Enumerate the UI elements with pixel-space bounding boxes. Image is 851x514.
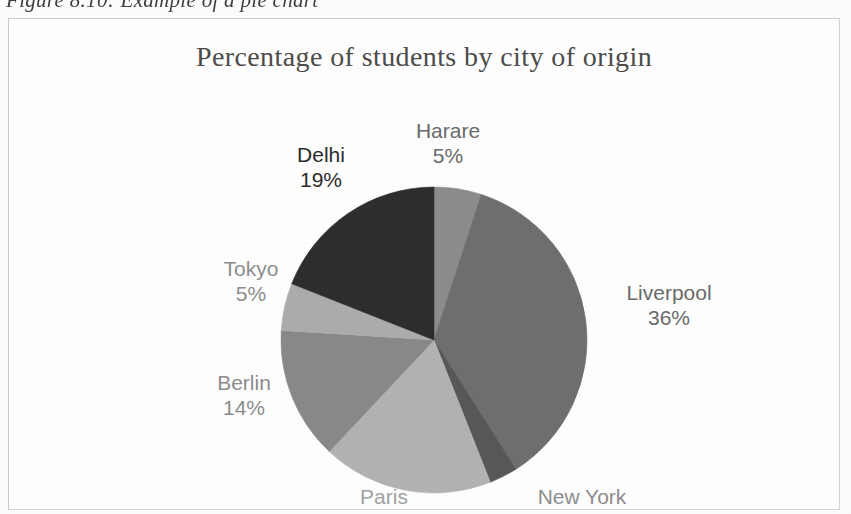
scanned-page: Figure 8.10: Example of a pie chart Perc…: [0, 0, 851, 514]
pie-label-harare-value: 5%: [383, 144, 513, 169]
pie-label-liverpool-name: Liverpool: [585, 281, 753, 306]
pie-label-tokyo-name: Tokyo: [187, 257, 315, 282]
pie-slice-group: [281, 187, 587, 493]
pie-label-tokyo: Tokyo 5%: [187, 257, 315, 307]
pie-label-berlin-value: 14%: [177, 396, 311, 421]
pie-label-berlin: Berlin 14%: [177, 371, 311, 421]
figure-caption: Figure 8.10: Example of a pie chart: [6, 0, 526, 16]
pie-label-delhi-value: 19%: [251, 168, 391, 193]
chart-frame: Percentage of students by city of origin…: [8, 18, 840, 510]
pie-label-paris: Paris 18%: [319, 485, 449, 510]
pie-label-paris-name: Paris: [319, 485, 449, 510]
chart-title: Percentage of students by city of origin: [9, 41, 839, 73]
pie-label-delhi: Delhi 19%: [251, 143, 391, 193]
pie-label-harare-name: Harare: [383, 119, 513, 144]
pie-chart: [273, 179, 595, 501]
pie-label-delhi-name: Delhi: [251, 143, 391, 168]
pie-label-tokyo-value: 5%: [187, 282, 315, 307]
figure-caption-text: Figure 8.10: Example of a pie chart: [6, 0, 526, 13]
pie-label-liverpool-value: 36%: [585, 306, 753, 331]
pie-label-new-york: New York 3%: [501, 485, 663, 510]
pie-label-liverpool: Liverpool 36%: [585, 281, 753, 331]
pie-chart-svg: [273, 179, 595, 501]
pie-label-berlin-name: Berlin: [177, 371, 311, 396]
pie-label-harare: Harare 5%: [383, 119, 513, 169]
pie-label-new-york-name: New York: [501, 485, 663, 510]
